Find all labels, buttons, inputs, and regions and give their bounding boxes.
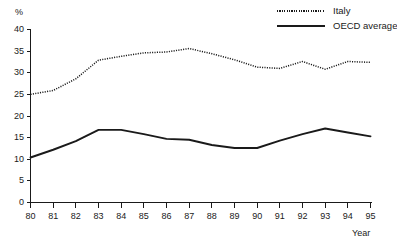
legend-label-oecd-average: OECD average [333,21,397,31]
series-line-italy [31,49,371,95]
y-tick-label: 40 [6,25,24,34]
x-tick-label: 85 [133,212,155,221]
x-tick-label: 80 [20,212,42,221]
y-tick-label: 10 [6,155,24,164]
x-tick-label: 82 [65,212,87,221]
y-tick-label: 25 [6,90,24,99]
x-tick-label: 88 [201,212,223,221]
x-tick-label: 90 [246,212,268,221]
y-tick-label: 0 [6,198,24,207]
y-axis-ticks [27,30,31,203]
x-tick-label: 92 [292,212,314,221]
y-tick-label: 20 [6,112,24,121]
x-tick-label: 93 [314,212,336,221]
x-axis-ticks [31,203,371,208]
x-axis-title: Year [352,229,370,238]
x-tick-label: 94 [337,212,359,221]
legend-line-samples [277,11,325,26]
x-tick-label: 83 [88,212,110,221]
x-tick-label: 84 [110,212,132,221]
y-tick-label: 15 [6,133,24,142]
y-tick-label: 30 [6,68,24,77]
y-tick-label: 35 [6,47,24,56]
x-tick-label: 91 [269,212,291,221]
x-tick-label: 81 [42,212,64,221]
series-line-oecd-average [31,129,371,158]
y-tick-label: 5 [6,176,24,185]
x-tick-label: 86 [156,212,178,221]
x-tick-label: 95 [360,212,382,221]
legend-label-italy: Italy [333,6,350,16]
x-tick-label: 87 [178,212,200,221]
data-series-lines [31,49,371,158]
axis-lines [31,29,372,203]
x-tick-label: 89 [224,212,246,221]
